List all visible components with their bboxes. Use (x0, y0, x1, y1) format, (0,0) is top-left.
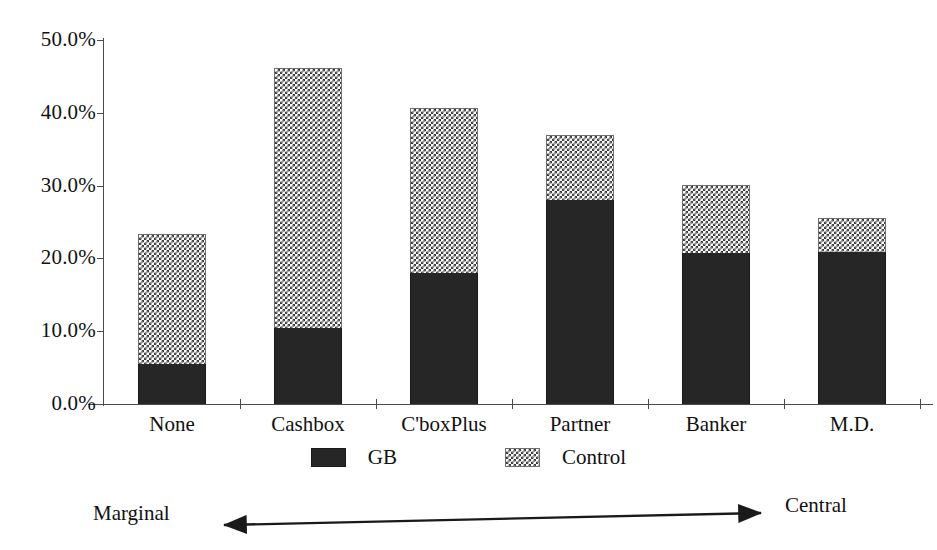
bar-segment-gb[interactable] (818, 252, 886, 404)
bar-segment-control[interactable] (546, 135, 614, 201)
y-tick-mark (97, 331, 104, 332)
legend-label-gb: GB (368, 447, 397, 468)
stacked-bar-chart: 50.0%40.0%30.0%20.0%10.0%0.0% NoneCashbo… (0, 0, 937, 550)
stacked-bar[interactable] (410, 108, 478, 404)
y-tick-label: 10.0% (10, 320, 96, 341)
stacked-bar[interactable] (682, 185, 750, 404)
legend-item-control[interactable]: Control (505, 447, 626, 468)
bar-group[interactable] (818, 218, 886, 404)
plot-area (104, 40, 920, 404)
bar-group[interactable] (274, 68, 342, 404)
y-tick-mark (97, 186, 104, 187)
y-tick-label: 30.0% (10, 175, 96, 196)
bar-group[interactable] (410, 108, 478, 404)
y-tick-mark (97, 40, 104, 41)
x-axis-line (88, 404, 933, 405)
bar-group[interactable] (682, 185, 750, 404)
chart-legend: GB Control (0, 447, 937, 468)
y-tick-label: 40.0% (10, 102, 96, 123)
y-tick-mark (97, 404, 104, 405)
bar-segment-control[interactable] (410, 108, 478, 273)
bar-segment-gb[interactable] (682, 253, 750, 404)
bar-group[interactable] (546, 135, 614, 404)
bar-segment-gb[interactable] (138, 364, 206, 404)
y-tick-label: 20.0% (10, 247, 96, 268)
legend-item-gb[interactable]: GB (311, 447, 397, 468)
y-tick-mark (97, 113, 104, 114)
stacked-bar[interactable] (274, 68, 342, 404)
bar-segment-gb[interactable] (410, 273, 478, 404)
x-tick-label: M.D. (784, 412, 920, 436)
annotation-label-marginal: Marginal (93, 502, 170, 524)
y-tick-label: 50.0% (10, 29, 96, 50)
annotation-label-central: Central (785, 494, 847, 516)
x-tick-mark (920, 399, 921, 409)
bar-group[interactable] (138, 234, 206, 404)
legend-swatch-gb-icon (311, 448, 346, 467)
y-tick-label: 0.0% (10, 393, 96, 414)
stacked-bar[interactable] (138, 234, 206, 404)
y-tick-mark (97, 258, 104, 259)
double-headed-arrow-icon (210, 494, 775, 546)
bar-segment-gb[interactable] (546, 200, 614, 404)
legend-swatch-control-icon (505, 448, 540, 467)
stacked-bar[interactable] (546, 135, 614, 404)
x-tick-label: C'boxPlus (376, 412, 512, 436)
x-tick-label: Partner (512, 412, 648, 436)
x-tick-label: Cashbox (240, 412, 376, 436)
legend-label-control: Control (562, 447, 626, 468)
x-tick-label: None (104, 412, 240, 436)
bar-segment-control[interactable] (818, 218, 886, 251)
bar-segment-control[interactable] (274, 68, 342, 329)
bar-segment-gb[interactable] (274, 328, 342, 404)
bar-segment-control[interactable] (682, 185, 750, 253)
stacked-bar[interactable] (818, 218, 886, 404)
bar-segment-control[interactable] (138, 234, 206, 364)
axis-direction-annotation: Marginal Central (0, 494, 937, 546)
x-tick-label: Banker (648, 412, 784, 436)
